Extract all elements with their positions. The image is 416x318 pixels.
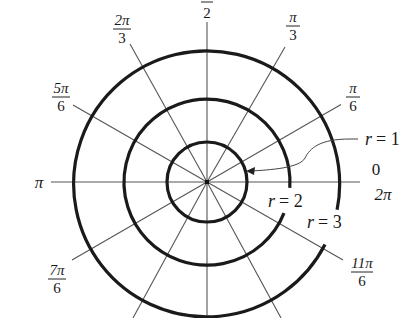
pi-over-2-den: 2: [203, 5, 211, 21]
origin-point: [205, 180, 209, 184]
pi-over-6-den: 6: [349, 98, 357, 114]
seven-pi-over-6-den: 6: [53, 280, 61, 296]
zero-label: 0: [372, 160, 381, 179]
r3-label: r= 3: [307, 212, 342, 232]
r1-leader: [250, 139, 358, 171]
eleven-pi-over-6-num: 11π: [351, 255, 373, 271]
r2-label: r= 2: [268, 191, 303, 211]
spoke-4pi-3: [133, 182, 207, 318]
angle-labels: 2 π 3 2π 3 π 6 5π 6 π 0 2π 7π 6 11π 6: [35, 2, 392, 296]
five-pi-over-6-den: 6: [57, 98, 65, 114]
pi-label: π: [35, 173, 44, 192]
pi-over-6-num: π: [349, 80, 357, 96]
two-pi-label: 2π: [374, 185, 392, 204]
five-pi-over-6-num: 5π: [53, 80, 69, 96]
pi-over-3-num: π: [289, 9, 297, 25]
two-pi-over-3-den: 3: [118, 30, 126, 46]
polar-spokes: [51, 22, 360, 318]
seven-pi-over-6-num: 7π: [49, 262, 65, 278]
spoke-7pi-6: [72, 182, 207, 260]
two-pi-over-3-num: 2π: [114, 12, 130, 28]
r1-label: r= 1: [365, 129, 400, 149]
eleven-pi-over-6-den: 6: [358, 273, 366, 289]
spoke-2pi-3: [130, 44, 207, 182]
polar-diagram: 2 π 3 2π 3 π 6 5π 6 π 0 2π 7π 6 11π 6 r=: [0, 0, 416, 318]
pi-over-3-den: 3: [289, 27, 297, 43]
